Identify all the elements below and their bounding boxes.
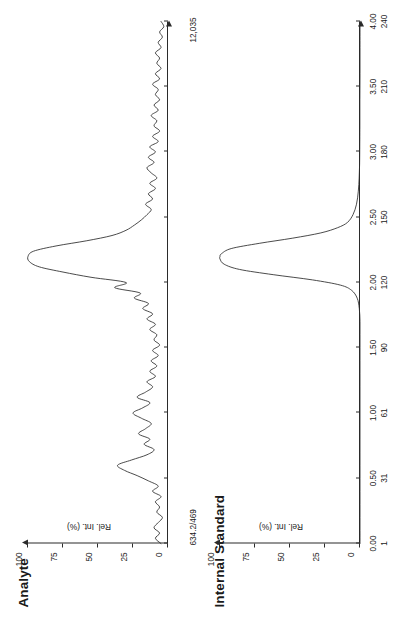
x-tick-label-scan: 180 bbox=[380, 144, 391, 160]
y-tick-label-internal-standard: 0 bbox=[347, 552, 356, 557]
x-tick-label-group: 2.50 150 bbox=[369, 209, 390, 225]
x-tick-label-scan: 90 bbox=[380, 339, 391, 355]
y-tick-label-internal-standard: 50 bbox=[277, 552, 286, 561]
x-tick-label-group: 4.00 240 bbox=[369, 13, 390, 29]
figure-stage: Analyte 0 25 bbox=[0, 0, 396, 621]
y-tick-label-analyte: 50 bbox=[85, 552, 94, 561]
x-tick-label-group: 3.50 210 bbox=[369, 78, 390, 94]
panel-analyte: Analyte 0 25 bbox=[0, 0, 198, 621]
y-tick-label-analyte: 75 bbox=[50, 552, 59, 561]
x-tick-label-time: 0.00 bbox=[369, 535, 380, 551]
y-tick-label-internal-standard: 75 bbox=[242, 552, 251, 561]
x-tick-label-time: 1.50 bbox=[369, 339, 380, 355]
y-tick-analyte bbox=[27, 543, 28, 547]
x-tick-label-group: 1.50 90 bbox=[369, 339, 390, 355]
trace-analyte bbox=[28, 21, 168, 543]
y-tick-label-internal-standard: 25 bbox=[312, 552, 321, 561]
plot-area-analyte: 0 25 50 75 100 Rel. Int. (%) 634.2/469 1… bbox=[28, 21, 168, 543]
y-tick-label-internal-standard: 100 bbox=[207, 552, 216, 566]
panel-internal-standard: Internal Standard 0.00 1 0.50 bbox=[198, 0, 396, 621]
x-tick-label-scan: 120 bbox=[380, 274, 391, 290]
x-tick-label-group: 0.00 1 bbox=[369, 535, 390, 551]
y-tick-internal-standard bbox=[289, 543, 290, 547]
x-tick-label-group: 2.00 120 bbox=[369, 274, 390, 290]
annotation-base-peak-intensity: 12,035 bbox=[189, 17, 198, 42]
y-tick-label-analyte: 100 bbox=[15, 552, 24, 566]
y-tick-label-analyte: 25 bbox=[120, 552, 129, 561]
y-tick-analyte bbox=[97, 543, 98, 547]
y-tick-label-analyte: 0 bbox=[155, 552, 164, 557]
x-tick-label-time: 3.00 bbox=[369, 144, 380, 160]
x-tick-label-time: 2.00 bbox=[369, 274, 380, 290]
plot-area-internal-standard: 0.00 1 0.50 31 1.00 61 1.50 90 2.00 120 … bbox=[220, 21, 360, 543]
y-tick-internal-standard bbox=[254, 543, 255, 547]
x-tick-label-time: 4.00 bbox=[369, 13, 380, 29]
x-tick-label-time: 0.50 bbox=[369, 470, 380, 486]
x-tick-label-group: 1.00 61 bbox=[369, 405, 390, 421]
y-tick-internal-standard bbox=[324, 543, 325, 547]
x-tick-label-time: 1.00 bbox=[369, 405, 380, 421]
x-tick-label-scan: 240 bbox=[380, 13, 391, 29]
y-tick-internal-standard bbox=[219, 543, 220, 547]
x-tick-label-time: 2.50 bbox=[369, 209, 380, 225]
y-tick-analyte bbox=[167, 543, 168, 547]
x-tick-label-group: 3.00 180 bbox=[369, 144, 390, 160]
x-tick-label-scan: 31 bbox=[380, 470, 391, 486]
trace-internal-standard bbox=[220, 21, 360, 543]
x-tick-label-scan: 210 bbox=[380, 78, 391, 94]
y-tick-analyte bbox=[62, 543, 63, 547]
x-tick-label-scan: 61 bbox=[380, 405, 391, 421]
x-tick-label-group: 0.50 31 bbox=[369, 470, 390, 486]
x-tick-label-scan: 150 bbox=[380, 209, 391, 225]
y-tick-analyte bbox=[132, 543, 133, 547]
annotation-mass-transition: 634.2/469 bbox=[189, 509, 198, 545]
x-tick-label-scan: 1 bbox=[380, 535, 391, 551]
x-tick-label-time: 3.50 bbox=[369, 78, 380, 94]
